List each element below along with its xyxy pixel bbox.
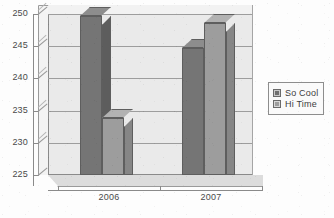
bar-so-cool-2007 <box>182 39 204 175</box>
y-axis-label: 250 <box>12 8 28 18</box>
x-axis-tick <box>58 186 59 191</box>
legend-item-so-cool: So Cool <box>273 88 318 98</box>
legend-item-hi-time: Hi Time <box>273 99 318 109</box>
bar-side-face <box>226 23 235 175</box>
bar-side-face <box>124 118 133 175</box>
x-axis-tick <box>160 186 161 191</box>
y-axis-label: 225 <box>12 169 28 179</box>
y-axis-label: 230 <box>12 137 28 147</box>
legend-swatch-icon-hi-time <box>273 100 281 108</box>
x-axis-label: 2006 <box>58 192 160 202</box>
y-axis-label: 240 <box>12 72 28 82</box>
bar-hi-time-2007 <box>204 14 226 175</box>
x-axis-tick <box>262 186 263 191</box>
bar-hi-time-2006 <box>102 109 124 175</box>
legend-label-hi-time: Hi Time <box>285 99 317 109</box>
legend: So Cool Hi Time <box>268 82 324 115</box>
legend-label-so-cool: So Cool <box>285 88 318 98</box>
plot-floor-edge <box>48 175 263 187</box>
x-axis-label: 2007 <box>160 192 262 202</box>
plot-right-edge <box>252 5 253 186</box>
bar-front-face <box>204 23 226 175</box>
bar-front-face <box>182 48 204 175</box>
x-axis-line <box>48 190 263 191</box>
y-axis-label: 235 <box>12 105 28 115</box>
bar-front-face <box>102 118 124 175</box>
bar-so-cool-2006 <box>80 7 102 175</box>
legend-swatch-icon-so-cool <box>273 89 281 97</box>
y-axis-line <box>33 14 34 186</box>
y-axis-label: 245 <box>12 40 28 50</box>
bar-chart: 225230235240245250 20062007 So Cool Hi T… <box>0 0 334 218</box>
bar-front-face <box>80 16 102 175</box>
